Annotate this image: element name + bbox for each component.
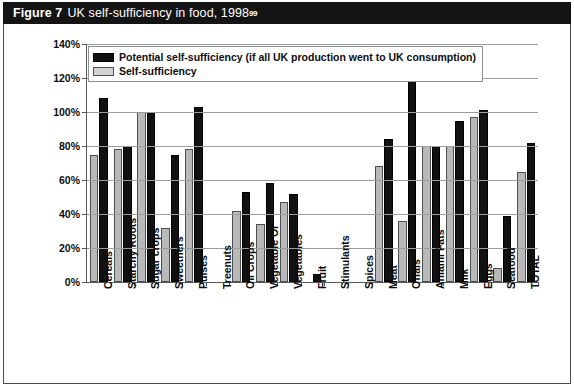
gridline bbox=[87, 112, 538, 113]
y-tick-label: 120% bbox=[53, 72, 80, 84]
y-tick-label: 0% bbox=[65, 276, 80, 288]
bar-self-sufficiency bbox=[493, 268, 502, 282]
x-axis-label: Sugar crops bbox=[149, 228, 161, 289]
bar-self-sufficiency bbox=[114, 149, 123, 282]
y-tick-label: 100% bbox=[53, 106, 80, 118]
y-tick-label: 60% bbox=[59, 174, 80, 186]
legend-item-potential: Potential self-sufficiency (if all UK pr… bbox=[93, 50, 476, 64]
figure-number: Figure 7 bbox=[13, 6, 62, 20]
bar-self-sufficiency bbox=[232, 211, 241, 282]
gridline bbox=[87, 214, 538, 215]
bar-potential-self-sufficiency bbox=[384, 139, 393, 282]
legend-label-potential: Potential self-sufficiency (if all UK pr… bbox=[119, 51, 476, 63]
gridline bbox=[87, 146, 538, 147]
x-axis-label: Vegetable Oi bbox=[268, 226, 280, 289]
bar-group bbox=[491, 44, 515, 282]
figure-container: Figure 7 UK self-sufficiency in food, 19… bbox=[0, 0, 574, 387]
x-axis-label: Oil Crops bbox=[244, 242, 256, 289]
y-tick-mark bbox=[82, 44, 87, 45]
bar-self-sufficiency bbox=[398, 221, 407, 282]
y-tick-label: 80% bbox=[59, 140, 80, 152]
y-tick-label: 140% bbox=[53, 38, 80, 50]
figure-title-bar: Figure 7 UK self-sufficiency in food, 19… bbox=[3, 2, 571, 24]
y-tick-mark bbox=[82, 248, 87, 249]
legend-label-actual: Self-sufficiency bbox=[119, 65, 197, 77]
gridline bbox=[87, 180, 538, 181]
bar-self-sufficiency bbox=[375, 166, 384, 282]
y-tick-mark bbox=[82, 78, 87, 79]
bar-self-sufficiency bbox=[185, 149, 194, 282]
x-axis-label: Meat bbox=[387, 265, 399, 289]
y-tick-mark bbox=[82, 180, 87, 181]
y-tick-label: 40% bbox=[59, 208, 80, 220]
bar-potential-self-sufficiency bbox=[455, 121, 464, 283]
bar-self-sufficiency bbox=[256, 224, 265, 282]
x-axis-label: Offals bbox=[410, 259, 422, 289]
bar-self-sufficiency bbox=[161, 228, 170, 282]
legend-item-actual: Self-sufficiency bbox=[93, 64, 476, 78]
chart-legend: Potential self-sufficiency (if all UK pr… bbox=[88, 46, 483, 82]
y-tick-mark bbox=[82, 146, 87, 147]
legend-swatch-potential-icon bbox=[93, 53, 114, 62]
x-axis-label: Treenuts bbox=[221, 245, 233, 289]
gridline bbox=[87, 44, 538, 45]
x-axis-label: Fruit bbox=[316, 266, 328, 289]
x-axis-label: Stimulants bbox=[339, 235, 351, 289]
bar-self-sufficiency bbox=[90, 155, 99, 283]
y-tick-label: 20% bbox=[59, 242, 80, 254]
x-axis-label: Eggs bbox=[482, 263, 494, 289]
bar-self-sufficiency bbox=[470, 117, 479, 282]
footnote-marker: 99 bbox=[249, 9, 257, 18]
legend-swatch-actual-icon bbox=[93, 67, 114, 76]
bar-potential-self-sufficiency bbox=[408, 68, 417, 282]
x-axis-labels: CerealsStarchy RootsSugar cropsSweetners… bbox=[86, 283, 538, 378]
x-axis-label: Seafood bbox=[505, 248, 517, 289]
y-axis: 0%20%40%60%80%100%120%140% bbox=[32, 44, 80, 283]
x-axis-label: Aniaml Fats bbox=[434, 229, 446, 289]
x-axis-label: Sweetners bbox=[173, 236, 185, 289]
bar-self-sufficiency bbox=[517, 172, 526, 283]
x-axis-label: Milk bbox=[458, 269, 470, 289]
x-axis-label: Pulses bbox=[197, 255, 209, 289]
page-title: UK self-sufficiency in food, 1998 bbox=[67, 6, 249, 20]
x-axis-label: Spices bbox=[363, 255, 375, 289]
bar-potential-self-sufficiency bbox=[479, 110, 488, 282]
chart-card: 0%20%40%60%80%100%120%140% CerealsStarch… bbox=[8, 28, 566, 380]
y-tick-mark bbox=[82, 112, 87, 113]
x-axis-label: Vegetables bbox=[292, 234, 304, 289]
bar-group bbox=[514, 44, 538, 282]
y-tick-mark bbox=[82, 214, 87, 215]
bar-self-sufficiency bbox=[137, 112, 146, 282]
x-axis-label: Cereals bbox=[102, 251, 114, 289]
x-axis-label: Starchy Roots bbox=[126, 218, 138, 289]
x-axis-label: TOTAL bbox=[529, 255, 541, 289]
